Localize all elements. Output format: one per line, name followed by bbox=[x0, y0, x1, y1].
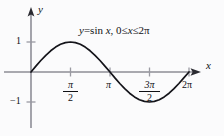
x-tick-label-pi: π bbox=[106, 80, 111, 90]
plot-canvas bbox=[0, 0, 224, 136]
equation-domain-high: 2π bbox=[139, 24, 150, 36]
x-tick-label-pi-over-2-denominator: 2 bbox=[63, 92, 78, 103]
x-tick-label-2pi: 2π bbox=[182, 80, 192, 90]
x-tick-label-3pi-over-2-numerator: 3π bbox=[139, 80, 160, 91]
equation-label: y=sin x, 0≤x≤2π bbox=[79, 25, 150, 36]
y-tick-label-1: 1 bbox=[16, 36, 21, 46]
x-axis-label: x bbox=[206, 60, 211, 71]
equation-function: sin bbox=[90, 24, 103, 36]
y-tick-label-minus-1: −1 bbox=[10, 96, 21, 106]
equation-comma: , bbox=[111, 24, 114, 36]
x-tick-label-pi-over-2-numerator: π bbox=[63, 80, 78, 91]
x-tick-label-3pi-over-2: 3π 2 bbox=[139, 80, 160, 103]
y-axis-label: y bbox=[38, 4, 43, 15]
x-tick-label-pi-over-2: π 2 bbox=[63, 80, 78, 103]
sine-graph-figure: y x 1 −1 π 2 π 3π 2 2π y=sin x, 0≤x≤2π bbox=[0, 0, 224, 136]
x-tick-label-2pi-text: 2π bbox=[182, 79, 192, 90]
x-tick-label-3pi-over-2-denominator: 2 bbox=[139, 92, 160, 103]
